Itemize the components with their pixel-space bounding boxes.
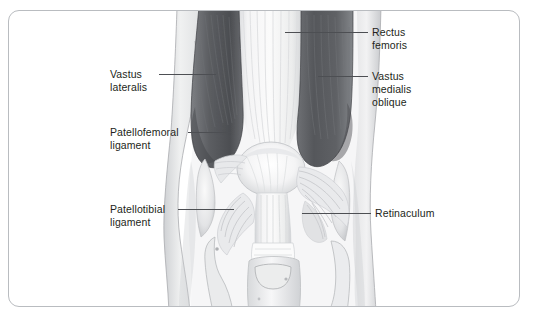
knee-anatomy-illustration bbox=[9, 11, 520, 307]
knee-anatomy-figure: Vastus lateralis Patellofemoral ligament… bbox=[0, 0, 539, 318]
vastus-medialis-oblique-muscle bbox=[297, 11, 353, 167]
figure-frame bbox=[8, 10, 520, 307]
vastus-lateralis-muscle bbox=[191, 11, 243, 168]
tibia bbox=[248, 257, 301, 308]
patella bbox=[237, 142, 305, 196]
patellar-tendon bbox=[252, 193, 295, 265]
